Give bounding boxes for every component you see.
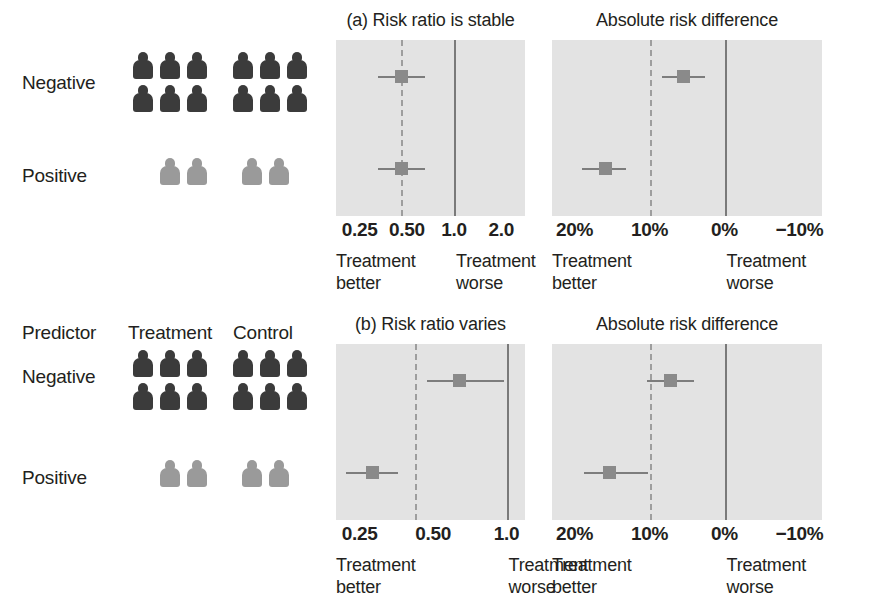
reference-line-dashed [650, 344, 652, 520]
pictogram-row [160, 460, 207, 487]
person-icon [233, 350, 253, 377]
point-estimate-marker [366, 466, 379, 479]
pictogram-row [242, 158, 289, 185]
person-icon [287, 85, 307, 112]
point-estimate-marker [664, 374, 677, 387]
pictogram-region-b: Predictor Treatment Control Negative Pos… [0, 304, 320, 608]
axis-tick-label: −10% [776, 219, 824, 241]
panel-a-risk-ratio-footnotes: Treatment betterTreatment worse [336, 250, 525, 300]
person-icon [187, 350, 207, 377]
person-icon [233, 52, 253, 79]
axis-direction-label: Treatment better [336, 250, 416, 294]
pictogram-row [233, 350, 307, 377]
axis-direction-label: Treatment worse [456, 250, 536, 294]
point-estimate-marker [599, 162, 612, 175]
axis-tick-label: 0.50 [389, 219, 425, 241]
panel-b-risk-ratio-footnotes: Treatment betterTreatment worse [336, 554, 525, 604]
person-icon [160, 158, 180, 185]
pictogram-row [133, 85, 207, 112]
pictogram-row [242, 460, 289, 487]
reference-line-dashed [650, 40, 652, 216]
panel-b-risk-ratio-title: (b) Risk ratio varies [336, 314, 525, 335]
point-estimate-marker [603, 466, 616, 479]
panel-a-risk-ratio-title: (a) Risk ratio is stable [336, 10, 525, 31]
column-header-predictor: Predictor [22, 322, 96, 344]
person-icon [242, 158, 262, 185]
pictogram-positive-control-b [242, 460, 289, 487]
pictogram-row [233, 383, 307, 410]
panel-a-risk-ratio: (a) Risk ratio is stable 0.250.501.02.0 … [336, 0, 525, 304]
figure-block-a: Negative Positive (a) Risk ratio is stab… [0, 0, 870, 304]
reference-line-dashed [401, 40, 403, 216]
reference-line-dashed [415, 344, 417, 520]
reference-line-solid [725, 344, 727, 520]
pictogram-row [133, 383, 207, 410]
reference-line-solid [725, 40, 727, 216]
panel-b-risk-difference-plot [552, 344, 822, 520]
person-icon [260, 383, 280, 410]
person-icon [160, 383, 180, 410]
axis-tick-label: 1.0 [441, 219, 467, 241]
axis-tick-label: 0.50 [415, 523, 451, 545]
column-header-control: Control [233, 322, 293, 344]
pictogram-row [133, 350, 207, 377]
pictogram-row [233, 52, 307, 79]
person-icon [233, 85, 253, 112]
person-icon [187, 158, 207, 185]
pictogram-row [233, 85, 307, 112]
row-label-negative-a: Negative [22, 72, 95, 94]
point-estimate-marker [395, 70, 408, 83]
panel-b-risk-ratio-ticks: 0.250.501.0 [336, 523, 525, 547]
person-icon [269, 158, 289, 185]
person-icon [133, 52, 153, 79]
person-icon [233, 383, 253, 410]
person-icon [260, 85, 280, 112]
person-icon [187, 85, 207, 112]
pictogram-negative-control-a [233, 52, 307, 112]
person-icon [160, 460, 180, 487]
point-estimate-marker [395, 162, 408, 175]
figure-block-b: Predictor Treatment Control Negative Pos… [0, 304, 870, 608]
pictogram-negative-control-b [233, 350, 307, 410]
panel-a-risk-difference-ticks: 20%10%0%−10% [552, 219, 822, 243]
point-estimate-marker [453, 374, 466, 387]
pictogram-row [133, 52, 207, 79]
person-icon [160, 85, 180, 112]
axis-direction-label: Treatment better [552, 554, 632, 598]
panel-b-risk-ratio: (b) Risk ratio varies 0.250.501.0 Treatm… [336, 304, 525, 608]
panel-a-risk-difference-plot [552, 40, 822, 216]
person-icon [133, 85, 153, 112]
panel-b-risk-difference: Absolute risk difference 20%10%0%−10% Tr… [552, 304, 822, 608]
reference-line-solid [507, 344, 509, 520]
panel-a-risk-ratio-plot [336, 40, 525, 216]
pictogram-negative-treatment-a [133, 52, 207, 112]
pictogram-positive-control-a [242, 158, 289, 185]
person-icon [133, 383, 153, 410]
reference-line-solid [454, 40, 456, 216]
axis-tick-label: 0% [711, 219, 738, 241]
person-icon [287, 52, 307, 79]
pictogram-positive-treatment-a [160, 158, 207, 185]
axis-tick-label: −10% [776, 523, 824, 545]
person-icon [160, 350, 180, 377]
point-estimate-marker [677, 70, 690, 83]
person-icon [187, 460, 207, 487]
axis-direction-label: Treatment worse [727, 554, 807, 598]
person-icon [269, 460, 289, 487]
column-header-treatment: Treatment [128, 322, 212, 344]
row-label-positive-a: Positive [22, 165, 87, 187]
panel-b-risk-difference-ticks: 20%10%0%−10% [552, 523, 822, 547]
person-icon [260, 52, 280, 79]
pictogram-region-a: Negative Positive [0, 0, 320, 304]
person-icon [287, 383, 307, 410]
person-icon [260, 350, 280, 377]
row-label-positive-b: Positive [22, 467, 87, 489]
axis-tick-label: 0.25 [342, 219, 378, 241]
panel-a-risk-difference: Absolute risk difference 20%10%0%−10% Tr… [552, 0, 822, 304]
axis-tick-label: 20% [556, 523, 593, 545]
person-icon [187, 383, 207, 410]
axis-tick-label: 10% [631, 219, 668, 241]
axis-tick-label: 10% [631, 523, 668, 545]
person-icon [242, 460, 262, 487]
axis-tick-label: 20% [556, 219, 593, 241]
